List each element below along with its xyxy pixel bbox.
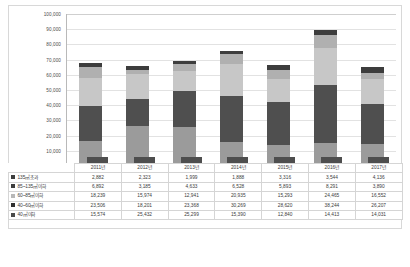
table-header-row: 2011년2012년2013년2014년2015년2016년2017년	[9, 164, 403, 173]
legend-label-text: 135㎡초과	[18, 175, 38, 180]
table-row: 40㎡이하15,57425,43225,29915,39012,84014,41…	[9, 210, 403, 219]
table-cell-value: 5,893	[262, 182, 309, 191]
bar-segment[interactable]	[79, 78, 102, 106]
table-cell-value: 38,244	[308, 201, 355, 210]
bar-column[interactable]	[209, 14, 255, 165]
stacked-bar[interactable]	[126, 66, 149, 165]
table-cell-value: 4,136	[355, 173, 402, 182]
y-axis: 10,00020,00030,00040,00050,00060,00070,0…	[17, 14, 64, 166]
legend-swatch-icon	[11, 194, 15, 198]
table-cell-value: 12,941	[168, 192, 215, 201]
legend-row-label: 40㎡이하	[9, 210, 75, 219]
table-cell-value: 23,368	[168, 201, 215, 210]
bar-segment[interactable]	[314, 85, 337, 143]
table-cell-value: 1,888	[215, 173, 262, 182]
table-cell-value: 15,390	[215, 210, 262, 219]
y-axis-tick-label: 50,000	[46, 88, 61, 93]
table-cell-value: 3,544	[308, 173, 355, 182]
bar-series-group	[67, 14, 396, 165]
table-cell-value: 15,293	[262, 192, 309, 201]
table-cell-value: 30,269	[215, 201, 262, 210]
y-axis-tick-label: 100,000	[44, 12, 61, 17]
bar-segment[interactable]	[267, 70, 290, 79]
table-cell-value: 26,207	[355, 201, 402, 210]
bar-segment[interactable]	[267, 102, 290, 146]
table-cell-value: 3,316	[262, 173, 309, 182]
table-column-header: 2014년	[215, 164, 262, 173]
bar-column[interactable]	[303, 14, 349, 165]
plot-area	[66, 14, 396, 166]
table-cell-value: 4,633	[168, 182, 215, 191]
stacked-bar[interactable]	[220, 51, 243, 165]
table-cell-value: 2,882	[75, 173, 122, 182]
legend-row-label: 60~85㎡이하	[9, 192, 75, 201]
bar-column[interactable]	[68, 14, 114, 165]
table-cell-value: 2,323	[121, 173, 168, 182]
bar-segment[interactable]	[173, 64, 196, 71]
legend-swatch-icon	[11, 184, 15, 188]
table-cell-value: 15,974	[121, 192, 168, 201]
bar-segment[interactable]	[79, 106, 102, 142]
y-axis-tick-label: 80,000	[46, 42, 61, 47]
legend-swatch-icon	[11, 203, 15, 207]
bar-segment[interactable]	[314, 35, 337, 48]
table-cell-value: 1,999	[168, 173, 215, 182]
bar-segment[interactable]	[173, 91, 196, 127]
bar-segment[interactable]	[361, 104, 384, 144]
table-row: 135㎡초과2,8822,3231,9991,8883,3163,5444,13…	[9, 173, 403, 182]
table-column-header: 2017년	[355, 164, 402, 173]
bar-segment[interactable]	[126, 74, 149, 98]
table-column-header: 2013년	[168, 164, 215, 173]
bar-column[interactable]	[115, 14, 161, 165]
y-axis-tick-label: 70,000	[46, 57, 61, 62]
table-cell-value: 15,574	[75, 210, 122, 219]
bar-segment[interactable]	[79, 67, 102, 77]
bar-segment[interactable]	[220, 96, 243, 142]
bar-segment[interactable]	[126, 99, 149, 127]
table-row: 60~85㎡이하18,23915,97412,94120,93515,29324…	[9, 192, 403, 201]
legend-row-label: 40~60㎡이하	[9, 201, 75, 210]
y-axis-tick-label: 60,000	[46, 72, 61, 77]
table-cell-value: 16,552	[355, 192, 402, 201]
bar-column[interactable]	[350, 14, 396, 165]
bar-segment[interactable]	[173, 71, 196, 91]
legend-label-text: 60~85㎡이하	[18, 193, 44, 198]
table-row: 85~135㎡이하6,8923,1854,6336,5285,8938,2913…	[9, 182, 403, 191]
legend-label-text: 85~135㎡이하	[18, 184, 46, 189]
legend-label-text: 40~60㎡이하	[18, 203, 44, 208]
table-column-header: 2011년	[75, 164, 122, 173]
stacked-bar[interactable]	[79, 63, 102, 165]
stacked-bar[interactable]	[267, 65, 290, 165]
table-cell-value: 3,890	[355, 182, 402, 191]
bar-column[interactable]	[162, 14, 208, 165]
table-cell-value: 14,413	[308, 210, 355, 219]
y-axis-tick-label: 40,000	[46, 103, 61, 108]
legend-row-label: 135㎡초과	[9, 173, 75, 182]
table-column-header: 2016년	[308, 164, 355, 173]
stacked-bar[interactable]	[173, 61, 196, 165]
table-cell-value: 18,201	[121, 201, 168, 210]
table-cell-value: 14,031	[355, 210, 402, 219]
table-cell-value: 8,291	[308, 182, 355, 191]
bar-segment[interactable]	[314, 48, 337, 85]
bar-segment[interactable]	[361, 79, 384, 104]
table-header-corner	[9, 164, 75, 173]
table-cell-value: 24,465	[308, 192, 355, 201]
legend-row-label: 85~135㎡이하	[9, 182, 75, 191]
table-cell-value: 28,620	[262, 201, 309, 210]
y-axis-tick-label: 90,000	[46, 27, 61, 32]
bar-segment[interactable]	[220, 64, 243, 96]
table-cell-value: 18,239	[75, 192, 122, 201]
table-header: 2011년2012년2013년2014년2015년2016년2017년	[9, 164, 403, 173]
stacked-bar[interactable]	[314, 30, 337, 165]
bar-segment[interactable]	[267, 79, 290, 102]
table-cell-value: 6,892	[75, 182, 122, 191]
table-column-header: 2012년	[121, 164, 168, 173]
data-table: 2011년2012년2013년2014년2015년2016년2017년 135㎡…	[8, 163, 403, 220]
bar-column[interactable]	[256, 14, 302, 165]
table-row: 40~60㎡이하23,50618,20123,36830,26928,62038…	[9, 201, 403, 210]
table-cell-value: 3,185	[121, 182, 168, 191]
bar-segment[interactable]	[220, 54, 243, 64]
legend-swatch-icon	[11, 175, 15, 179]
stacked-bar[interactable]	[361, 67, 384, 165]
